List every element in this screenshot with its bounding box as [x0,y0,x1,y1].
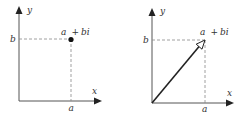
point-label-a: a [200,27,205,37]
x-axis-label: x [92,86,97,96]
tick-x-label: a [202,104,207,114]
point-marker-icon [68,37,73,42]
diagram-vector-form: y x b a a + bi [143,6,234,114]
tick-y-label: b [143,35,149,45]
diagram-point-form: y x b a a + bi [10,5,102,113]
point-label-plus: + [72,27,80,37]
y-axis-label: y [26,5,33,15]
x-axis-label: x [227,88,232,98]
complex-plane-figure: y x b a a + bi y x b a a + bi [0,0,244,115]
y-axis-arrow-icon [149,8,156,16]
point-label-plus: + [211,27,219,37]
x-axis-arrow-icon [94,98,102,105]
point-label-a: a [61,27,66,37]
x-axis-arrow-icon [226,100,234,107]
vector-shaft [152,46,200,103]
tick-y-label: b [10,34,16,44]
y-axis-arrow-icon [16,6,23,14]
point-label-bi: bi [220,27,229,37]
tick-x-label: a [69,103,74,113]
point-label-bi: bi [81,27,90,37]
y-axis-label: y [159,6,166,16]
